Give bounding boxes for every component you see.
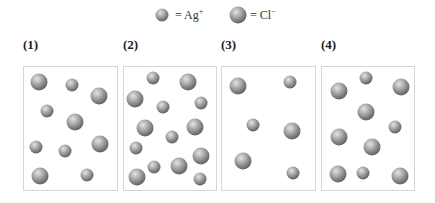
cl-ion-particle: [330, 166, 347, 183]
ag-ion-particle: [30, 141, 43, 154]
panel-spheres: [30, 72, 410, 186]
cl-ion-particle: [230, 78, 247, 95]
cl-ion-particle: [331, 83, 348, 100]
cl-ion-particle: [393, 79, 410, 96]
ag-ion-particle: [284, 76, 297, 89]
ag-ion-particle: [389, 121, 402, 134]
cl-ion-particle: [32, 168, 49, 185]
cl-ion-particle: [358, 104, 375, 121]
cl-ion-particle: [127, 91, 144, 108]
ag-ion-particle: [148, 161, 161, 174]
cl-ion-particle: [364, 139, 381, 156]
ag-ion-particle: [147, 72, 160, 85]
cl-ion-particle: [284, 123, 301, 140]
cl-ion-particle: [137, 120, 154, 137]
cl-ion-particle: [67, 114, 84, 131]
cl-ion-particle: [31, 74, 48, 91]
cl-ion-particle: [392, 168, 409, 185]
ag-ion-particle: [166, 131, 179, 144]
cl-ion-icon: [230, 7, 247, 24]
ag-ion-particle: [81, 169, 94, 182]
cl-ion-particle: [171, 158, 188, 175]
ag-ion-particle: [59, 145, 72, 158]
ag-ion-particle: [157, 101, 170, 114]
cl-ion-particle: [180, 74, 197, 91]
ag-ion-particle: [360, 72, 373, 85]
ag-ion-particle: [357, 167, 370, 180]
cl-ion-particle: [331, 129, 348, 146]
ag-ion-particle: [66, 79, 79, 92]
ag-ion-particle: [41, 105, 54, 118]
ag-ion-particle: [194, 173, 207, 186]
cl-ion-particle: [91, 88, 108, 105]
ag-ion-icon: [156, 9, 169, 22]
legend-spheres: [156, 7, 247, 24]
cl-ion-particle: [129, 169, 146, 186]
particle-layer: [0, 0, 435, 203]
ag-ion-particle: [287, 167, 300, 180]
ag-ion-particle: [195, 97, 208, 110]
cl-ion-particle: [193, 148, 210, 165]
ag-ion-particle: [130, 142, 143, 155]
cl-ion-particle: [187, 119, 204, 136]
ag-ion-particle: [247, 119, 260, 132]
cl-ion-particle: [235, 153, 252, 170]
cl-ion-particle: [92, 136, 109, 153]
